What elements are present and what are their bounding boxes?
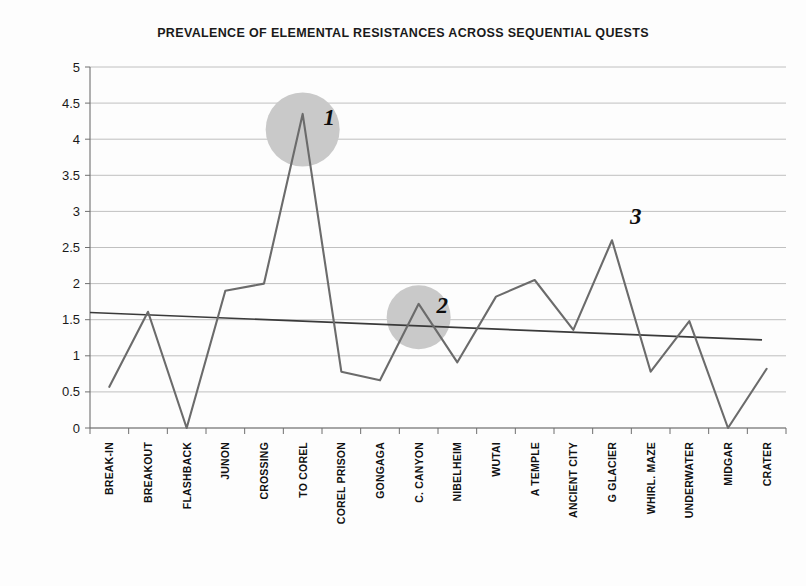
x-tick-labels-group: BREAK-INBREAKOUTFLASHBACKJUNONCROSSINGTO… <box>103 442 772 525</box>
y-tick-label: 0 <box>73 421 80 436</box>
x-tick-label: FLASHBACK <box>181 442 193 509</box>
x-tick-label: ANCIENT CITY <box>567 442 579 518</box>
y-tick-label: 3 <box>73 204 80 219</box>
x-tick-label: COREL PRISON <box>335 442 347 524</box>
y-tick-label: 3.5 <box>62 168 80 183</box>
x-tick-label: WUTAI <box>490 442 502 477</box>
x-tick-label: C. CANYON <box>413 442 425 503</box>
y-tick-label: 4.5 <box>62 96 80 111</box>
callout-number-1: 1 <box>323 105 335 130</box>
callout-number-3: 3 <box>629 204 642 229</box>
y-tick-label: 1 <box>73 348 80 363</box>
x-tick-label: CRATER <box>761 442 773 486</box>
gridlines-group <box>90 67 786 428</box>
y-tick-label: 2 <box>73 276 80 291</box>
callout-number-2: 2 <box>436 293 449 318</box>
chart-container: PREVALENCE OF ELEMENTAL RESISTANCES ACRO… <box>0 0 806 586</box>
y-tick-label: 0.5 <box>62 384 80 399</box>
x-tick-label: MIDGAR <box>722 442 734 486</box>
y-tick-label: 4 <box>73 132 80 147</box>
y-axis-group: 54.543.532.521.510.50 <box>62 60 90 436</box>
x-axis-group <box>90 428 786 434</box>
data-line-elemental-resistances <box>109 114 766 428</box>
y-tick-label: 1.5 <box>62 312 80 327</box>
y-tick-label: 2.5 <box>62 240 80 255</box>
chart-plot-svg: 54.543.532.521.510.50 123 BREAK-INBREAKO… <box>0 0 806 586</box>
data-series-group <box>109 114 766 428</box>
x-tick-label: UNDERWATER <box>683 442 695 518</box>
x-tick-label: G GLACIER <box>606 442 618 502</box>
x-tick-label: A TEMPLE <box>529 442 541 496</box>
x-tick-label: BREAKOUT <box>142 442 154 503</box>
x-tick-label: NIBELHEIM <box>451 442 463 502</box>
x-tick-label: BREAK-IN <box>103 442 115 495</box>
x-tick-label: TO COREL <box>297 442 309 498</box>
x-tick-label: CROSSING <box>258 442 270 500</box>
x-tick-label: GONGAGA <box>374 442 386 499</box>
x-tick-label: WHIRL. MAZE <box>645 442 657 514</box>
x-tick-label: JUNON <box>219 442 231 480</box>
y-tick-label: 5 <box>73 60 80 75</box>
